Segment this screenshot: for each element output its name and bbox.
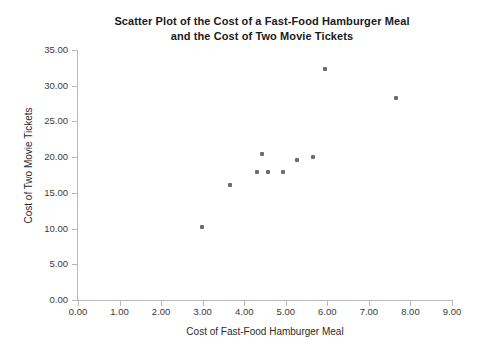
- y-axis-title: Cost of Two Movie Tickets: [23, 76, 34, 256]
- x-tick-label: 7.00: [346, 306, 392, 317]
- data-point: [295, 158, 299, 162]
- x-tick-label: 5.00: [263, 306, 309, 317]
- x-tick-label: 6.00: [304, 306, 350, 317]
- y-tick-label-text: 5.00: [24, 259, 68, 269]
- scatter-chart: Scatter Plot of the Cost of a Fast-Food …: [0, 0, 484, 349]
- x-tick-label: 3.00: [180, 306, 226, 317]
- data-point: [266, 170, 270, 174]
- plot-area: [78, 50, 452, 300]
- y-tick-mark: [72, 300, 77, 301]
- y-tick-label-text: 0.00: [24, 295, 68, 305]
- x-tick-label: 1.00: [97, 306, 143, 317]
- y-tick-mark: [72, 229, 77, 230]
- y-tick-mark: [72, 193, 77, 194]
- x-tick-label: 0.00: [55, 306, 101, 317]
- x-tick-label: 9.00: [429, 306, 475, 317]
- x-tick-label: 4.00: [221, 306, 267, 317]
- y-tick-label: 0.00: [22, 295, 68, 305]
- y-tick-label-text: 35.00: [24, 45, 68, 55]
- chart-title-line-2: and the Cost of Two Movie Tickets: [62, 29, 462, 44]
- x-tick-label: 8.00: [387, 306, 433, 317]
- y-tick-mark: [72, 86, 77, 87]
- data-point: [200, 225, 204, 229]
- y-tick-mark: [72, 157, 77, 158]
- x-axis-line: [77, 300, 453, 301]
- x-tick-label: 2.00: [138, 306, 184, 317]
- y-tick-mark: [72, 264, 77, 265]
- data-point: [323, 67, 327, 71]
- data-point: [311, 155, 315, 159]
- data-point: [255, 170, 259, 174]
- data-point: [228, 183, 232, 187]
- y-tick-mark: [72, 121, 77, 122]
- data-point: [260, 152, 264, 156]
- chart-title-line-1: Scatter Plot of the Cost of a Fast-Food …: [62, 14, 462, 29]
- y-tick-label: 35.00: [22, 45, 68, 55]
- data-point: [394, 96, 398, 100]
- chart-title: Scatter Plot of the Cost of a Fast-Food …: [62, 14, 462, 44]
- y-tick-label: 5.00: [22, 259, 68, 269]
- data-point: [281, 170, 285, 174]
- x-axis-title: Cost of Fast-Food Hamburger Meal: [78, 326, 452, 337]
- y-tick-mark: [72, 50, 77, 51]
